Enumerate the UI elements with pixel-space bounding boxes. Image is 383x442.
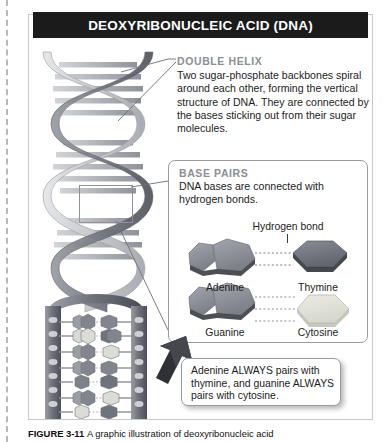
pairing-rule-callout: Adenine ALWAYS pairs with thymine, and g… (181, 358, 341, 406)
double-helix-heading: DOUBLE HELIX (177, 55, 375, 67)
base-pairs-panel: BASE PAIRS DNA bases are connected with … (168, 160, 368, 343)
base-label-cytosine: Cytosine (279, 327, 357, 338)
figure-caption-text: A graphic illustration of deoxyribonucle… (87, 428, 274, 439)
adenine-thymine-pair (189, 239, 347, 276)
base-label-adenine: Adenine (183, 282, 267, 293)
figure-caption: FIGURE 3-11 A graphic illustration of de… (28, 428, 378, 442)
double-helix-callout: DOUBLE HELIX Two sugar-phosphate backbon… (177, 55, 375, 135)
pairing-rule-text: Adenine ALWAYS pairs with thymine, and g… (191, 365, 337, 403)
figure-page: DEOXYRIBONUCLEIC ACID (DNA) (0, 0, 383, 442)
base-pair-diagram (169, 161, 369, 344)
base-label-thymine: Thymine (279, 282, 357, 293)
page-title: DEOXYRIBONUCLEIC ACID (DNA) (88, 18, 313, 33)
figure-title-bar: DEOXYRIBONUCLEIC ACID (DNA) (33, 12, 368, 38)
helix-zoom-selection-box (79, 185, 133, 223)
double-helix-body: Two sugar-phosphate backbones spiral aro… (177, 69, 375, 135)
page-edge-dashed-rule (6, 0, 8, 442)
figure-caption-number: FIGURE 3-11 (28, 428, 84, 439)
